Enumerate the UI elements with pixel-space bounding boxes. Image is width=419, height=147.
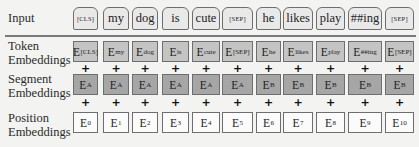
- position-embedding-1-subscript: 1: [118, 119, 122, 127]
- segment-embedding-2-letter: E: [139, 79, 146, 91]
- segment-embedding-0-letter: E: [79, 79, 86, 91]
- token-embedding-5: E[SEP]: [222, 41, 253, 62]
- plus-segment-position-7: +: [292, 97, 304, 108]
- segment-embedding-1-letter: E: [110, 79, 117, 91]
- position-embedding-5: E5: [222, 112, 253, 133]
- position-embedding-9-subscript: 9: [367, 119, 371, 127]
- token-embedding-0-letter: E: [73, 46, 80, 58]
- segment-embedding-3-subscript: A: [177, 81, 182, 89]
- segment-embedding-4-letter: E: [200, 79, 207, 91]
- segment-embedding-8-subscript: B: [332, 81, 337, 89]
- position-embedding-9: E9: [348, 112, 382, 133]
- segment-embedding-10-subscript: B: [401, 81, 406, 89]
- token-embedding-1-subscript: my: [115, 48, 124, 56]
- token-embedding-4-letter: E: [196, 46, 203, 58]
- plus-token-segment-10: +: [394, 63, 406, 74]
- token-embedding-8: Eplay: [316, 41, 345, 62]
- token-embedding-3-subscript: is: [177, 48, 182, 56]
- token-label-line2: Embeddings: [8, 53, 71, 67]
- segment-embedding-6-letter: E: [262, 79, 269, 91]
- segment-embedding-3: EA: [162, 74, 189, 95]
- segment-label-line1: Segment: [8, 72, 71, 86]
- position-embedding-6-subscript: 6: [271, 119, 275, 127]
- segment-embedding-5-letter: E: [231, 79, 238, 91]
- input-token-5: [SEP]: [222, 7, 253, 30]
- plus-segment-position-1: +: [110, 97, 122, 108]
- plus-token-segment-6: +: [263, 63, 275, 74]
- position-embedding-3: E3: [162, 112, 189, 133]
- input-row-label: Input: [8, 11, 34, 25]
- token-embedding-2-letter: E: [136, 46, 143, 58]
- input-token-3: is: [162, 7, 189, 30]
- token-embedding-4-subscript: cute: [204, 48, 216, 56]
- plus-token-segment-9: +: [359, 63, 371, 74]
- token-embedding-10-letter: E: [387, 46, 394, 58]
- position-embedding-4: E4: [192, 112, 220, 133]
- segment-embedding-6: EB: [256, 74, 281, 95]
- plus-segment-position-5: +: [232, 97, 244, 108]
- position-embedding-2-letter: E: [139, 117, 146, 129]
- token-label-line1: Token: [8, 39, 71, 53]
- input-divider-line: [5, 35, 416, 37]
- segment-embedding-0: EA: [73, 74, 98, 95]
- token-embedding-1-letter: E: [108, 46, 115, 58]
- plus-segment-position-0: +: [80, 97, 92, 108]
- position-embedding-4-letter: E: [200, 117, 207, 129]
- plus-segment-position-2: +: [139, 97, 151, 108]
- position-embedding-10: E10: [385, 112, 414, 133]
- position-embedding-3-subscript: 3: [178, 119, 182, 127]
- segment-embedding-2-subscript: A: [146, 81, 151, 89]
- position-embedding-10-letter: E: [392, 117, 399, 129]
- input-token-4: cute: [192, 7, 220, 30]
- plus-token-segment-7: +: [292, 63, 304, 74]
- position-embedding-2-subscript: 2: [147, 119, 151, 127]
- segment-embeddings-label: Segment Embeddings: [8, 72, 71, 100]
- plus-segment-position-10: +: [394, 97, 406, 108]
- position-embedding-3-letter: E: [170, 117, 177, 129]
- token-embedding-6-letter: E: [261, 46, 268, 58]
- segment-embedding-1-subscript: A: [117, 81, 122, 89]
- segment-embedding-7: EB: [283, 74, 313, 95]
- token-embedding-9: E##ing: [348, 41, 382, 62]
- segment-embedding-3-letter: E: [169, 79, 176, 91]
- token-embedding-7-subscript: likes: [295, 48, 308, 56]
- segment-embedding-10-letter: E: [393, 79, 400, 91]
- position-embedding-5-letter: E: [232, 117, 239, 129]
- token-embedding-10: E[SEP]: [385, 41, 414, 62]
- position-embedding-4-subscript: 4: [208, 119, 212, 127]
- segment-embedding-0-subscript: A: [87, 81, 92, 89]
- input-token-10: [SEP]: [385, 7, 414, 30]
- position-embeddings-label: Position Embeddings: [8, 111, 71, 139]
- plus-token-segment-2: +: [139, 63, 151, 74]
- segment-embedding-9-subscript: B: [366, 81, 371, 89]
- segment-embedding-9-letter: E: [359, 79, 366, 91]
- segment-embedding-6-subscript: B: [270, 81, 275, 89]
- position-embedding-0-letter: E: [80, 117, 87, 129]
- plus-segment-position-6: +: [263, 97, 275, 108]
- token-embedding-6-subscript: he: [269, 48, 276, 56]
- token-embedding-1: Emy: [103, 41, 129, 62]
- token-embedding-7-letter: E: [288, 46, 295, 58]
- plus-token-segment-3: +: [170, 63, 182, 74]
- segment-embedding-8: EB: [316, 74, 345, 95]
- position-embedding-1-letter: E: [110, 117, 117, 129]
- position-embedding-7: E7: [283, 112, 313, 133]
- position-embedding-8-letter: E: [325, 117, 332, 129]
- token-embedding-5-letter: E: [225, 46, 232, 58]
- input-token-8: play: [316, 7, 345, 30]
- position-label-line2: Embeddings: [8, 125, 71, 139]
- token-embedding-4: Ecute: [192, 41, 220, 62]
- segment-embedding-7-letter: E: [292, 79, 299, 91]
- segment-embedding-9: EB: [348, 74, 382, 95]
- segment-embedding-5-subscript: A: [239, 81, 244, 89]
- position-embedding-0: E0: [73, 112, 98, 133]
- segment-embedding-4-subscript: A: [207, 81, 212, 89]
- position-embedding-0-subscript: 0: [88, 119, 92, 127]
- token-embedding-3-letter: E: [169, 46, 176, 58]
- position-embedding-10-subscript: 10: [400, 119, 407, 127]
- segment-label-line2: Embeddings: [8, 86, 71, 100]
- input-token-2: dog: [132, 7, 158, 30]
- segment-embedding-5: EA: [222, 74, 253, 95]
- token-embedding-2-subscript: dog: [144, 48, 155, 56]
- position-embedding-1: E1: [103, 112, 129, 133]
